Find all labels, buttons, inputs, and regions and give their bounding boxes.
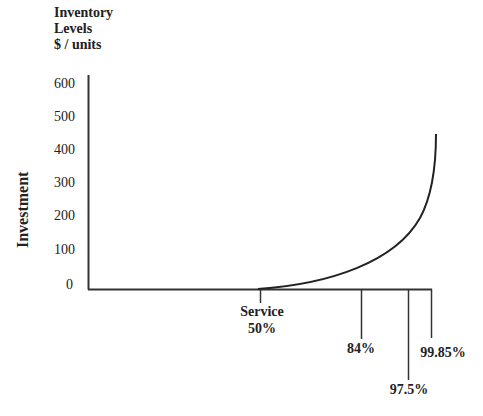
x-label-50: 50% [242, 321, 282, 337]
investment-curve [258, 134, 436, 289]
x-label-97-5: 97.5% [388, 382, 430, 398]
x-label-service: Service [232, 304, 292, 320]
chart-plot [0, 0, 483, 416]
x-label-84: 84% [346, 341, 376, 357]
x-label-99-85: 99.85% [414, 345, 472, 361]
